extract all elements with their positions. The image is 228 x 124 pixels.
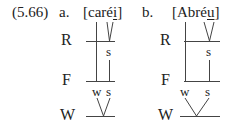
metrical-grid-lines (0, 0, 228, 124)
